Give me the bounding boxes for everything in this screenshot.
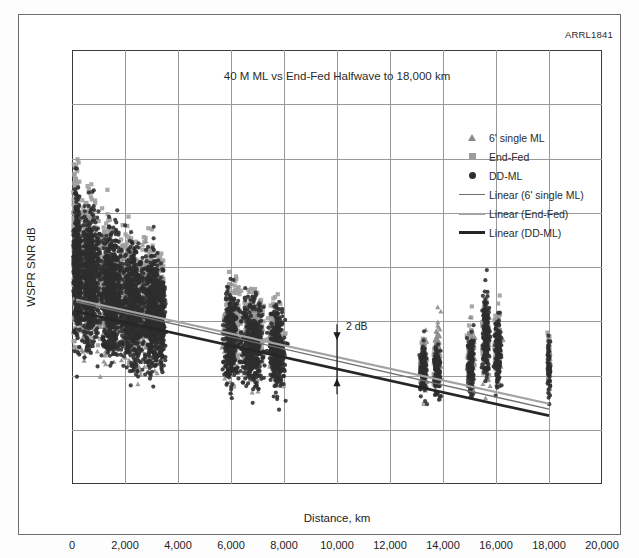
legend-item-label: Linear (6' single ML)	[489, 189, 584, 201]
legend-key-glyph	[459, 194, 485, 195]
legend-item: End-Fed	[455, 147, 584, 166]
annotation-label-2db: 2 dB	[346, 320, 368, 332]
line-marker-icon	[455, 213, 489, 215]
circle-marker-icon	[455, 172, 489, 179]
x-axis-tick-label: 18,000	[532, 539, 566, 551]
chart-legend: 6' single MLEnd-FedDD-MLLinear (6' singl…	[455, 128, 584, 242]
x-axis-tick-label: 10,000	[320, 539, 354, 551]
legend-key-glyph	[459, 213, 485, 215]
annotation-layer	[72, 50, 602, 484]
legend-item: Linear (End-Fed)	[455, 204, 584, 223]
x-axis-tick-label: 20,000	[585, 539, 619, 551]
legend-item: 6' single ML	[455, 128, 584, 147]
legend-item: DD-ML	[455, 166, 584, 185]
y-axis-label: WSPR SNR dB	[22, 50, 40, 484]
x-axis-tick-label: 16,000	[479, 539, 513, 551]
plot-area: 40 M ML vs End-Fed Halfwave to 18,000 km…	[72, 50, 602, 484]
x-axis-tick-label: 0	[69, 539, 75, 551]
figure-id-label: ARRL1841	[565, 29, 613, 40]
figure-container: ARRL1841 WSPR SNR dB 40 M ML vs End-Fed …	[0, 0, 639, 558]
legend-key-glyph	[469, 153, 476, 160]
legend-key-glyph	[459, 231, 485, 234]
x-axis-tick-label: 2,000	[111, 539, 139, 551]
legend-key-glyph	[469, 172, 476, 179]
x-axis-tick-label: 8,000	[270, 539, 298, 551]
legend-item: Linear (DD-ML)	[455, 223, 584, 242]
annotation-arrow-head	[333, 378, 340, 386]
y-axis-label-text: WSPR SNR dB	[25, 227, 37, 306]
x-axis-label: Distance, km	[72, 512, 602, 524]
line-marker-icon	[455, 231, 489, 234]
legend-item-label: DD-ML	[489, 170, 522, 182]
chart-title: 40 M ML vs End-Fed Halfwave to 18,000 km	[72, 70, 602, 82]
legend-item-label: Linear (End-Fed)	[489, 208, 568, 220]
x-axis-tick-label: 12,000	[373, 539, 407, 551]
triangle-marker-icon	[455, 134, 489, 141]
line-marker-icon	[455, 194, 489, 195]
legend-item-label: Linear (DD-ML)	[489, 227, 561, 239]
x-axis-tick-label: 14,000	[426, 539, 460, 551]
x-axis-tick-label: 4,000	[164, 539, 192, 551]
legend-item: Linear (6' single ML)	[455, 185, 584, 204]
legend-item-label: 6' single ML	[489, 132, 545, 144]
legend-key-glyph	[468, 134, 476, 141]
annotation-arrow-head	[333, 332, 340, 340]
square-marker-icon	[455, 153, 489, 160]
x-axis-tick-label: 6,000	[217, 539, 245, 551]
legend-item-label: End-Fed	[489, 151, 529, 163]
